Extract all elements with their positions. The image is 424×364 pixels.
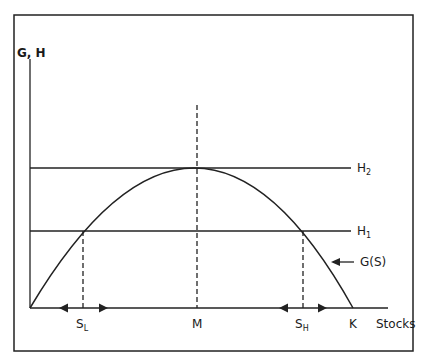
- sh-right-arrow-icon: [318, 304, 327, 313]
- frame-border: [14, 15, 413, 351]
- sl-left-arrow-icon: [59, 304, 68, 313]
- m-label: M: [192, 317, 202, 331]
- sl-right-arrow-icon: [99, 304, 108, 313]
- y-axis-label: G, H: [17, 46, 46, 60]
- h2-label: H2: [357, 161, 371, 177]
- curve-label: G(S): [360, 255, 386, 269]
- diagram-canvas: G, H Stocks G(S) H2 H1 SL M SH K: [0, 0, 424, 364]
- gs-pointer-arrow-icon: [331, 258, 340, 266]
- k-label: K: [349, 317, 358, 331]
- x-axis-label: Stocks: [376, 317, 415, 331]
- sh-left-arrow-icon: [279, 304, 288, 313]
- sh-label: SH: [295, 317, 309, 333]
- h1-label: H1: [357, 224, 371, 240]
- sl-label: SL: [76, 317, 89, 333]
- growth-curve: [30, 168, 353, 308]
